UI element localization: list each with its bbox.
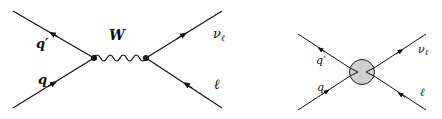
label-w: W [109, 27, 126, 43]
q-prime-arrow-icon [52, 34, 58, 38]
right-diagram: q′ q νℓ ℓ [298, 34, 429, 110]
label-lepton: ℓ [214, 76, 220, 92]
neutrino-arrow-icon [178, 34, 184, 38]
contact-interaction-blob [350, 60, 375, 85]
label-lepton-right: ℓ [420, 86, 425, 99]
label-q-right: q [317, 81, 324, 94]
label-q-prime: q′ [36, 36, 49, 51]
lepton-arrow-icon [186, 84, 192, 88]
label-q: q [38, 72, 47, 87]
q-prime-arrow-icon-right [320, 49, 325, 52]
w-boson-wavy-line [94, 55, 146, 61]
label-q-prime-right: q′ [316, 54, 326, 67]
lepton-line-right [374, 76, 426, 110]
feynman-diagrams: q′ q W νℓ ℓ q′ q νℓ ℓ [0, 0, 442, 119]
label-neutrino-right: νℓ [418, 43, 429, 57]
q-arrow-icon [48, 83, 54, 87]
neutrino-arrow-icon-right [396, 51, 401, 54]
lepton-line [146, 58, 222, 108]
left-diagram: q′ q W νℓ ℓ [13, 11, 225, 108]
vertex-dot-left [91, 55, 97, 61]
label-neutrino: νℓ [213, 26, 225, 43]
